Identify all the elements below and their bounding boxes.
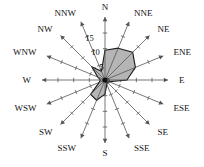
direction-label-sw: SW: [39, 127, 53, 137]
arrow-head-icon-w: [42, 78, 46, 83]
direction-label-ene: ENE: [173, 47, 191, 57]
radial-scale-label-5: 5: [99, 62, 103, 72]
direction-label-e: E: [179, 75, 185, 85]
direction-label-nw: NW: [37, 24, 52, 34]
arrow-head-icon-s: [103, 139, 108, 143]
radial-scale-label-10: 10: [91, 47, 100, 57]
direction-label-ne: NE: [158, 24, 170, 34]
direction-label-wsw: WSW: [15, 103, 38, 113]
direction-label-n: N: [102, 2, 109, 12]
radial-scale-label-15: 15: [85, 33, 94, 43]
wind-rose-chart: NNNENEENEEESESESSESSSWSWWSWWWNWNWNNW 051…: [0, 0, 204, 167]
direction-label-sse: SSE: [134, 143, 150, 153]
radial-scale-label-0: 0: [105, 76, 109, 86]
direction-label-ssw: SSW: [58, 143, 77, 153]
direction-label-nnw: NNW: [55, 8, 77, 18]
arrow-head-icon-e: [164, 78, 168, 83]
arrow-head-icon-n: [103, 17, 108, 21]
wind-rose-plot: NNNENEENEEESESESSESSSWSWWSWWWNWNWNNW 051…: [0, 0, 204, 167]
direction-label-s: S: [102, 148, 107, 158]
direction-label-w: W: [23, 75, 32, 85]
direction-label-ese: ESE: [173, 103, 190, 113]
direction-label-se: SE: [158, 127, 169, 137]
direction-label-nne: NNE: [134, 8, 153, 18]
direction-label-wnw: WNW: [13, 47, 37, 57]
